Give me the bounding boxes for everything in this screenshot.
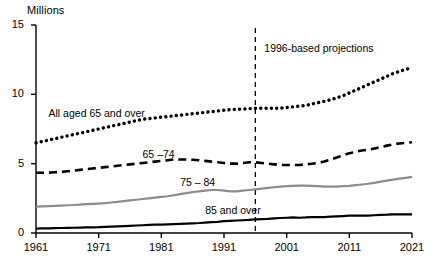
x-axis-tick-label: 2001 bbox=[265, 241, 309, 253]
y-axis-tick-label: 15 bbox=[2, 18, 24, 30]
series-label-75-84: 75 – 84 bbox=[180, 176, 215, 188]
projection-annotation-label: 1996-based projections bbox=[264, 42, 373, 54]
series-line-75-84 bbox=[36, 177, 412, 207]
y-axis-tick-label: 5 bbox=[2, 157, 24, 169]
x-axis-tick-label: 1981 bbox=[139, 241, 183, 253]
series-label-85-and-over: 85 and over bbox=[205, 204, 260, 216]
series-label-all-aged-65-and-over: All aged 65 and over bbox=[49, 107, 145, 119]
chart-container: Millions 0510151961197119811991200120112… bbox=[0, 0, 433, 268]
x-axis-tick-label: 1991 bbox=[202, 241, 246, 253]
y-axis-tick-label: 0 bbox=[2, 226, 24, 238]
x-axis-tick-label: 2011 bbox=[327, 241, 371, 253]
series-line-85-and-over bbox=[36, 214, 412, 228]
x-axis-tick-label: 1961 bbox=[14, 241, 58, 253]
chart-plot-area bbox=[0, 0, 433, 268]
series-line-all-aged-65-and-over bbox=[36, 68, 412, 143]
x-axis-tick-label: 2021 bbox=[390, 241, 433, 253]
x-axis-tick-label: 1971 bbox=[77, 241, 121, 253]
series-line-65-74 bbox=[36, 142, 412, 173]
series-label-65-74: 65 –74 bbox=[143, 148, 175, 160]
y-axis-tick-label: 10 bbox=[2, 87, 24, 99]
